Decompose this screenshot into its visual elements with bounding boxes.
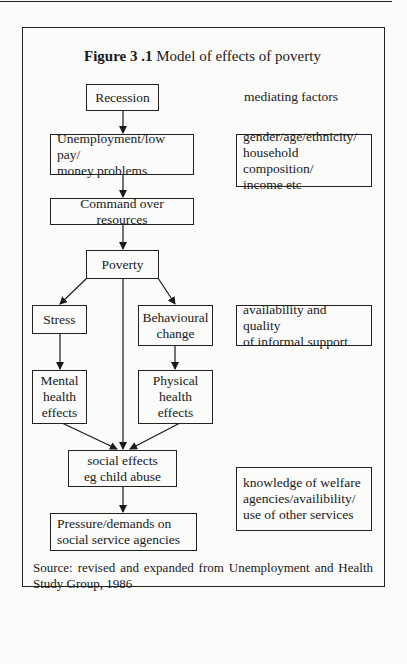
factor1-label-1: gender/age/ethnicity/ — [243, 129, 365, 145]
physical-health-box: Physical health effects — [138, 370, 213, 424]
recession-label: Recession — [95, 90, 150, 106]
unemployment-box: Unemployment/low pay/ money problems — [50, 134, 194, 175]
poverty-label: Poverty — [102, 257, 144, 273]
poverty-box: Poverty — [86, 250, 159, 279]
mediating-factor-informal-support: availability and quality of informal sup… — [236, 305, 372, 346]
recession-box: Recession — [86, 84, 159, 111]
mediating-factor-demographics: gender/age/ethnicity/ household composit… — [236, 134, 372, 187]
mental-label-3: effects — [40, 405, 78, 421]
mental-health-box: Mental health effects — [32, 370, 87, 424]
physical-label-2: health — [153, 389, 199, 405]
behavioural-label-1: Behavioural — [143, 310, 209, 326]
physical-label-3: effects — [153, 405, 199, 421]
factor1-label-2: household composition/ — [243, 145, 365, 177]
unemployment-label-2: money problems — [57, 163, 187, 179]
pressure-label-1: Pressure/demands on — [57, 516, 180, 532]
social-label-1: social effects — [84, 453, 161, 469]
unemployment-label-1: Unemployment/low pay/ — [57, 131, 187, 163]
social-effects-box: social effects eg child abuse — [68, 450, 177, 487]
mental-label-1: Mental — [40, 373, 78, 389]
stress-label: Stress — [43, 312, 75, 328]
social-label-2: eg child abuse — [84, 469, 161, 485]
mediating-factors-heading: mediating factors — [244, 89, 338, 105]
behavioural-label-2: change — [143, 326, 209, 342]
source-note: Source: revised and expanded from Unempl… — [33, 560, 373, 592]
stress-box: Stress — [32, 305, 87, 334]
factor3-label-2: agencies/availibility/ — [243, 491, 361, 507]
factor3-label-3: use of other services — [243, 507, 361, 523]
factor2-label-1: availability and quality — [243, 302, 365, 334]
factor1-label-3: income etc — [243, 177, 365, 193]
mediating-factor-welfare-knowledge: knowledge of welfare agencies/availibili… — [236, 467, 372, 531]
command-label: Command over resources — [57, 196, 187, 228]
physical-label-1: Physical — [153, 373, 199, 389]
behavioural-box: Behavioural change — [138, 305, 213, 346]
command-box: Command over resources — [50, 198, 194, 225]
pressure-label-2: social service agencies — [57, 532, 180, 548]
factor2-label-2: of informal support — [243, 334, 365, 350]
pressure-box: Pressure/demands on social service agenc… — [50, 513, 197, 551]
factor3-label-1: knowledge of welfare — [243, 475, 361, 491]
mental-label-2: health — [40, 389, 78, 405]
